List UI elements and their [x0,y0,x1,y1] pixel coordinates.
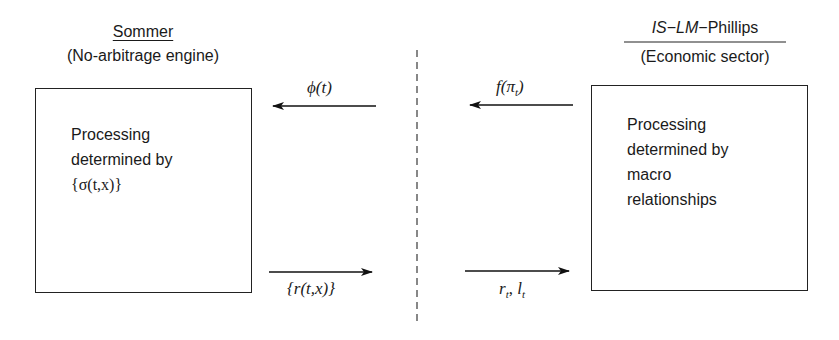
right-module-box: Processing determined by macro relations… [591,85,808,291]
r-l-l-sub: t [522,288,525,300]
right-box-line-1: Processing [627,112,728,137]
right-module-subtitle: (Economic sector) [610,48,800,66]
right-box-text: Processing determined by macro relations… [627,112,728,212]
arrow-r-l-label: rt, lt [499,279,525,300]
r-l-r: r [499,279,506,298]
left-module-title: Sommer [35,23,251,41]
right-module-title: IS−LM−Phillips [610,19,800,37]
left-module-box: Processing determined by {σ(t,x)} [35,88,252,293]
left-box-text: Processing determined by {σ(t,x)} [71,122,172,197]
arrow-phi-label: ϕ(t) [307,78,332,98]
left-box-line-2: determined by [71,147,172,172]
left-box-line-1: Processing [71,122,172,147]
right-title-phillips: −Phillips [698,19,758,36]
f-pi-end: ) [518,77,524,96]
f-pi-main: f(π [496,77,515,96]
right-title-lm: LM [676,19,698,36]
left-box-line-3: {σ(t,x)} [71,172,172,197]
left-module-subtitle: (No-arbitrage engine) [35,47,251,65]
arrow-r-tx-label: {r(t,x)} [287,279,335,299]
right-title-is: IS [652,19,667,36]
right-box-line-2: determined by [627,137,728,162]
right-box-line-4: relationships [627,187,728,212]
right-title-dash-1: − [667,19,676,36]
arrow-f-pi-label: f(πt) [496,77,524,98]
right-box-line-3: macro [627,162,728,187]
r-l-comma: , [509,279,518,298]
